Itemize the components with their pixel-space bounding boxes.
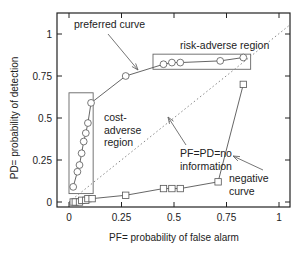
y-tick-label: 0 xyxy=(46,197,52,208)
negative-curve-point xyxy=(215,179,221,185)
preferred-curve-point xyxy=(169,59,176,66)
preferred-curve-point xyxy=(122,73,129,80)
preferred-curve-point xyxy=(80,138,87,145)
annotation-arrow xyxy=(233,156,263,170)
preferred-curve-point xyxy=(82,130,89,137)
negative-curve-point xyxy=(177,185,183,191)
annotation-line: adverse xyxy=(104,124,142,136)
annotation-arrow xyxy=(108,34,138,70)
annotation-risk-adverse-region: risk-adverse region xyxy=(180,39,269,51)
preferred-curve-point xyxy=(177,59,184,66)
preferred-curve-point xyxy=(160,61,167,68)
annotation-line: curve xyxy=(229,185,255,197)
annotation-line: negative xyxy=(229,172,269,184)
x-tick-label: 0.25 xyxy=(112,212,132,223)
annotation-no-information: PF=PD=noinformation xyxy=(180,147,232,172)
annotation-line: region xyxy=(104,136,133,148)
preferred-curve-point xyxy=(88,99,95,106)
y-tick-label: 0.5 xyxy=(38,113,52,124)
annotation-line: cost- xyxy=(104,111,127,123)
negative-curve-point xyxy=(240,81,246,87)
arrowhead-icon xyxy=(168,117,174,124)
annotation-preferred-curve: preferred curve xyxy=(74,18,145,30)
annotation-arrow xyxy=(168,117,186,145)
x-tick-label: 0 xyxy=(66,212,72,223)
preferred-curve-point xyxy=(76,162,83,169)
preferred-curve-point xyxy=(85,120,92,127)
negative-curve-point xyxy=(123,192,129,198)
roc-chart: preferred curverisk-adverse regioncost-a… xyxy=(0,0,304,254)
negative-curve-point xyxy=(169,185,175,191)
annotation-line: information xyxy=(180,160,232,172)
annotation-negative-curve: negativecurve xyxy=(229,172,269,197)
x-axis-label: PF= probability of false alarm xyxy=(109,232,239,243)
y-axis-label: PD= probability of detection xyxy=(9,57,20,180)
y-tick-label: 1 xyxy=(46,29,52,40)
preferred-curve-point xyxy=(217,57,224,64)
x-tick-label: 1 xyxy=(276,212,282,223)
annotation-line: PF=PD=no xyxy=(180,147,232,159)
preferred-curve-point xyxy=(70,183,77,190)
x-tick-label: 0.5 xyxy=(167,212,181,223)
negative-curve-point xyxy=(89,195,95,201)
annotation-line: risk-adverse region xyxy=(180,39,269,51)
negative-curve-point xyxy=(160,185,166,191)
y-tick-label: 0.75 xyxy=(33,71,53,82)
preferred-curve-point xyxy=(78,150,85,157)
y-tick-label: 0.25 xyxy=(33,155,53,166)
annotation-line: preferred curve xyxy=(74,18,145,30)
annotation-cost-adverse-region: cost-adverseregion xyxy=(104,111,142,148)
preferred-curve-point xyxy=(74,168,81,175)
x-tick-label: 0.75 xyxy=(217,212,237,223)
preferred-curve-point xyxy=(240,54,247,61)
